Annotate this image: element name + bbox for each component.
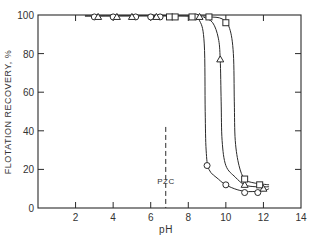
square-marker [257,182,263,188]
x-tick-label: 4 [110,212,116,223]
x-tick-label: 14 [295,212,307,223]
circle-marker [242,190,248,196]
x-tick-label: 10 [220,212,232,223]
series-triangles [95,13,269,191]
y-axis-label: FLOTATION RECOVERY, % [3,50,13,174]
square-marker [206,14,212,20]
series-curve [211,17,269,185]
square-marker [189,14,195,20]
x-tick-label: 12 [258,212,270,223]
pzc-annotation-label: PZC [157,177,175,186]
flotation-recovery-chart: 2468101214020406080100 FLOTATION RECOVER… [0,0,316,238]
y-tick-label: 40 [23,126,35,137]
y-tick-label: 60 [23,87,35,98]
circle-marker [223,182,229,188]
series-curve [203,17,269,187]
circle-marker [204,163,210,169]
y-tick-label: 0 [28,203,34,214]
square-marker [223,20,229,26]
x-tick-label: 6 [148,212,154,223]
square-marker [167,14,173,20]
series-circles [85,14,269,196]
y-tick-label: 20 [23,164,35,175]
y-tick-label: 80 [23,49,35,60]
triangle-marker [217,56,224,62]
square-marker [242,176,248,182]
square-marker [172,14,178,20]
series-layer [85,13,269,195]
series-curve [85,16,269,192]
x-axis-label: pH [159,224,173,235]
x-tick-label: 2 [73,212,79,223]
x-tick-label: 8 [186,212,192,223]
series-squares [167,14,270,188]
y-tick-label: 100 [17,10,34,21]
